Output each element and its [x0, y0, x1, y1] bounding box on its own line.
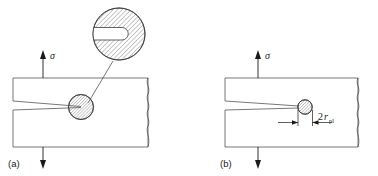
- dimension-label-subscript: pl: [329, 117, 334, 124]
- specimen-outline-b: [225, 78, 358, 147]
- magnified-crack-tip-inset: [90, 8, 145, 60]
- stress-arrow-down-a-head: [40, 160, 46, 169]
- panel-caption-a: (a): [8, 158, 20, 169]
- dimension-label-prefix: 2: [318, 111, 323, 122]
- dimension-label-symbol: r: [324, 111, 328, 122]
- leader-line-a: [88, 61, 113, 103]
- stress-label-a: σ: [50, 50, 56, 61]
- stress-arrow-up-b: [255, 50, 261, 78]
- blunt-notch-shape: [90, 28, 128, 41]
- inset-blunt-notch: [90, 28, 128, 41]
- plastic-zone-circle-a: [69, 95, 94, 120]
- stress-arrow-down-a: [40, 147, 46, 169]
- stress-arrow-down-b-head: [255, 160, 261, 169]
- stress-label-b: σ: [265, 50, 271, 61]
- crack-upper-flank-b: [225, 101, 299, 106]
- stress-arrow-down-b: [255, 147, 261, 169]
- fracture-mechanics-diagram: σ (a): [0, 0, 378, 176]
- stress-arrow-up-b-head: [255, 50, 261, 59]
- stress-arrow-up-a: [40, 50, 46, 78]
- stress-arrow-up-a-head: [40, 50, 46, 59]
- plastic-zone-circle-b: [298, 100, 312, 114]
- crack-lower-flank-b: [225, 108, 299, 110]
- panel-caption-b: (b): [220, 158, 232, 169]
- panel-a: σ (a): [8, 8, 149, 169]
- panel-b: σ: [220, 50, 359, 169]
- dimension-label-2rpl: 2 r pl: [318, 111, 334, 124]
- dimension-arrow-head-left: [292, 120, 298, 124]
- figure-container: σ (a): [0, 0, 378, 176]
